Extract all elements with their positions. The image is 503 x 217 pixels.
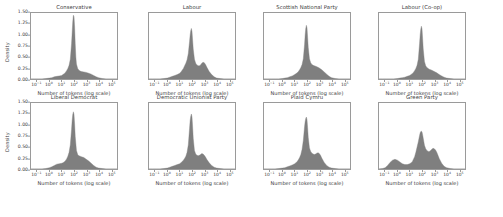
y-tick-label: 1.25: [18, 21, 28, 26]
panel-liberal-democrat: Liberal Democrat0.000.250.500.751.001.25…: [30, 94, 118, 190]
plot-area: [30, 102, 118, 170]
density-curve: [149, 114, 235, 169]
x-tick-label: 104: [95, 83, 103, 88]
y-tick-mark: [28, 113, 30, 114]
x-tick-label: 104: [213, 83, 221, 88]
x-tick-label: 105: [456, 83, 464, 88]
density-curve: [31, 112, 117, 169]
y-axis: 0.000.250.500.751.001.251.50: [10, 102, 30, 170]
density-curve: [264, 25, 350, 79]
x-axis: 10−1100101102103104105Number of tokens (…: [378, 170, 466, 190]
y-tick-mark: [28, 124, 30, 125]
x-tick-label: 104: [328, 83, 336, 88]
x-tick-label: 100: [163, 83, 171, 88]
x-tick-label: 105: [108, 83, 116, 88]
x-tick-label: 100: [45, 173, 53, 178]
y-tick-label: 0.25: [18, 66, 28, 71]
y-tick-mark: [28, 136, 30, 137]
y-tick-label: 0.25: [18, 156, 28, 161]
x-tick-label: 10−1: [31, 173, 41, 178]
y-tick-label: 1.50: [18, 10, 28, 15]
y-tick-mark: [28, 147, 30, 148]
x-tick-label: 101: [291, 83, 299, 88]
panel-title: Labour (Co-op): [378, 4, 466, 11]
x-tick-label: 100: [278, 173, 286, 178]
y-axis-title: Density: [4, 132, 10, 152]
x-axis: 10−1100101102103104105Number of tokens (…: [30, 170, 118, 190]
panel-title: Liberal Democrat: [30, 94, 118, 101]
panel-title: Labour: [148, 4, 236, 11]
density-curve: [264, 117, 350, 169]
panel-title: Conservative: [30, 4, 118, 11]
panel-row-0: Conservative0.000.250.500.751.001.251.50…: [0, 4, 503, 100]
x-tick-label: 10−1: [149, 173, 159, 178]
panel-democratic-unionist-party: Democratic Unionist Party10−110010110210…: [148, 94, 236, 190]
y-tick-mark: [28, 158, 30, 159]
y-tick-mark: [28, 57, 30, 58]
x-tick-label: 104: [328, 173, 336, 178]
y-tick-label: 0.75: [18, 134, 28, 139]
panel-row-1: Liberal Democrat0.000.250.500.751.001.25…: [0, 94, 503, 190]
x-tick-label: 102: [188, 173, 196, 178]
panel-title: Green Party: [378, 94, 466, 101]
y-axis-title: Density: [4, 42, 10, 62]
y-tick-label: 0.50: [18, 145, 28, 150]
x-tick-label: 103: [83, 83, 91, 88]
density-curve: [31, 15, 117, 79]
x-tick-label: 102: [70, 173, 78, 178]
panel-title: Democratic Unionist Party: [148, 94, 236, 101]
y-tick-mark: [28, 102, 30, 103]
x-axis-title: Number of tokens (log scale): [30, 180, 118, 186]
y-tick-mark: [28, 46, 30, 47]
plot-area: [263, 102, 351, 170]
x-tick-label: 10−1: [149, 83, 159, 88]
x-axis-title: Number of tokens (log scale): [263, 180, 351, 186]
density-curve: [379, 26, 465, 79]
x-tick-label: 105: [341, 173, 349, 178]
panel-labour-co-op: Labour (Co-op)10−1100101102103104105Numb…: [378, 4, 466, 100]
x-tick-label: 103: [431, 173, 439, 178]
plot-area: [263, 12, 351, 80]
x-tick-label: 102: [303, 173, 311, 178]
x-tick-label: 103: [316, 173, 324, 178]
x-tick-label: 10−1: [31, 83, 41, 88]
panel-scottish-national-party: Scottish National Party10−11001011021031…: [263, 4, 351, 100]
x-tick-label: 103: [431, 83, 439, 88]
x-tick-label: 10−1: [264, 173, 274, 178]
y-tick-mark: [28, 68, 30, 69]
plot-area: [30, 12, 118, 80]
x-tick-label: 101: [176, 83, 184, 88]
y-tick-label: 0.75: [18, 44, 28, 49]
x-axis-title: Number of tokens (log scale): [378, 180, 466, 186]
plot-area: [148, 102, 236, 170]
x-tick-label: 103: [201, 83, 209, 88]
x-tick-label: 104: [95, 173, 103, 178]
y-tick-label: 0.50: [18, 55, 28, 60]
x-tick-label: 100: [278, 83, 286, 88]
x-tick-label: 101: [58, 83, 66, 88]
density-curve: [149, 28, 235, 79]
x-tick-label: 105: [456, 173, 464, 178]
x-axis-title: Number of tokens (log scale): [148, 180, 236, 186]
x-tick-label: 105: [108, 173, 116, 178]
x-tick-label: 101: [291, 173, 299, 178]
plot-area: [378, 12, 466, 80]
panel-plaid-cymru: Plaid Cymru10−1100101102103104105Number …: [263, 94, 351, 190]
y-tick-label: 0.00: [18, 78, 28, 83]
x-axis: 10−1100101102103104105Number of tokens (…: [148, 170, 236, 190]
x-tick-label: 103: [316, 83, 324, 88]
x-tick-label: 103: [83, 173, 91, 178]
y-tick-label: 1.25: [18, 111, 28, 116]
x-tick-label: 101: [58, 173, 66, 178]
x-tick-label: 104: [213, 173, 221, 178]
x-tick-label: 101: [176, 173, 184, 178]
x-tick-label: 102: [418, 83, 426, 88]
y-axis: 0.000.250.500.751.001.251.50: [10, 12, 30, 80]
x-tick-label: 101: [406, 173, 414, 178]
density-figure: Conservative0.000.250.500.751.001.251.50…: [0, 0, 503, 217]
plot-area: [148, 12, 236, 80]
plot-area: [378, 102, 466, 170]
x-tick-label: 105: [226, 83, 234, 88]
y-tick-label: 1.00: [18, 122, 28, 127]
y-tick-mark: [28, 23, 30, 24]
